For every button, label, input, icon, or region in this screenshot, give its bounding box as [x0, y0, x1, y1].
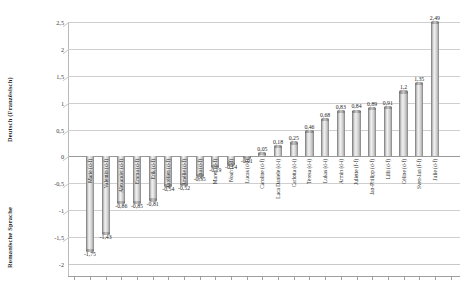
bar-slot[interactable]: 2,49Julie (d-f) [431, 22, 439, 264]
bar[interactable] [290, 143, 298, 156]
bar-category-label: Lukas (d-i) [322, 159, 328, 183]
floor-front-edge [68, 276, 460, 277]
floor-back-edge [68, 264, 460, 265]
bar[interactable] [258, 154, 266, 157]
bar-slot[interactable]: 0,91Lilli (d-f) [384, 22, 392, 264]
bar-slot[interactable]: -1,75Marie (d-f) [86, 22, 94, 264]
x-axis-tick [90, 276, 91, 280]
bar-slot[interactable]: 0,68Lukas (d-i) [321, 22, 329, 264]
y-tick-label: 0,5 [38, 126, 64, 133]
y-tick-label: 0 [38, 153, 64, 160]
bar[interactable] [337, 112, 345, 157]
y-tick-label: 2 [38, 45, 64, 52]
bar-category-label: Luca Daniele (d-i) [275, 159, 281, 199]
bar-slot[interactable]: 0,84Juliette (f-f) [352, 22, 360, 264]
bar-value-label: 2,49 [430, 15, 440, 21]
bar-category-label: Noah (d-f) [228, 159, 234, 182]
bar-category-label: Sina (d-f) [197, 159, 203, 180]
x-axis-tick [325, 276, 326, 280]
bar-slot[interactable]: 0,89Jan-Philipp (d-f) [368, 22, 376, 264]
bar-category-label: Juliette (f-f) [353, 159, 359, 185]
x-axis-tick [262, 276, 263, 280]
x-axis-tick [168, 276, 169, 280]
bar[interactable] [368, 109, 376, 157]
bar-slot[interactable]: -0,52Amélie (d-f) [180, 22, 188, 264]
bar[interactable] [384, 108, 392, 157]
y-tick-label: -1 [38, 207, 64, 214]
bar-cap [399, 90, 407, 93]
bar-slot[interactable]: -0,14Noah (d-f) [227, 22, 235, 264]
bar-category-label: Emma (d-f) [134, 159, 140, 184]
y-tick-label: 1,5 [38, 72, 64, 79]
bar-value-label: -0,81 [147, 201, 159, 207]
x-axis-tick [278, 276, 279, 280]
bar[interactable] [321, 120, 329, 157]
x-axis-floor [68, 264, 460, 282]
bar-slot[interactable]: -0,85Emma (d-f) [133, 22, 141, 264]
y-tick-label: -0,5 [38, 180, 64, 187]
x-axis-tick [309, 276, 310, 280]
bar-slot[interactable]: 0,46Teresa (d-i) [305, 22, 313, 264]
bar-series: -1,75Marie (d-f)-1,43Valentin (d-f)-0,86… [68, 22, 460, 264]
x-axis-tick [357, 276, 358, 280]
bar-category-label: Lilli (d-f) [385, 159, 391, 180]
x-axis-tick [106, 276, 107, 280]
bar[interactable] [415, 84, 423, 157]
bar-slot[interactable]: -0,54Aurélien (d-f) [164, 22, 172, 264]
bar-slot[interactable]: 0,05Caroline (d-f) [258, 22, 266, 264]
bar-slot[interactable]: -0,81Erik (d-f) [149, 22, 157, 264]
bar-chart: Deutsch (Französisch) Romanische Sprache… [0, 0, 467, 296]
bar[interactable] [352, 111, 360, 156]
plot-area: -1,75Marie (d-f)-1,43Valentin (d-f)-0,86… [68, 22, 460, 264]
bar-category-label: Erik (d-f) [150, 159, 156, 180]
x-axis-tick [74, 276, 75, 280]
y-tick-label: 2,5 [38, 19, 64, 26]
bar-value-label: 0,46 [304, 124, 314, 130]
bar-value-label: -1,75 [84, 251, 96, 257]
bar-slot[interactable]: 1,35Sven-Jan (f-f) [415, 22, 423, 264]
bar-category-label: Armin (d-i) [338, 159, 344, 184]
bar-value-label: -1,43 [100, 234, 112, 240]
y-tick-label: -1,5 [38, 234, 64, 241]
bar-category-label: Teresa (d-i) [306, 159, 312, 184]
bar-category-label: Caroline (d-f) [259, 159, 265, 189]
x-axis-tick [294, 276, 295, 280]
bar-slot[interactable]: -1,43Valentin (d-f) [102, 22, 110, 264]
x-axis-tick [451, 276, 452, 280]
bar-slot[interactable]: -0,35Sina (d-f) [196, 22, 204, 264]
x-axis-tick [372, 276, 373, 280]
bar-value-label: 1,35 [414, 76, 424, 82]
x-axis-tick [184, 276, 185, 280]
bar-value-label: -0,86 [115, 203, 127, 209]
bar-slot[interactable]: 0,83Armin (d-i) [337, 22, 345, 264]
bar-category-label: Alexander (d-f) [118, 159, 124, 193]
bar-slot[interactable]: -0,19Maren (d-f) [211, 22, 219, 264]
bar-value-label: 0,84 [351, 103, 361, 109]
bar[interactable] [431, 23, 439, 157]
bar-slot[interactable]: -0,01Lucas (d-f) [243, 22, 251, 264]
bar[interactable] [274, 147, 282, 157]
bar-slot[interactable]: 0,18Luca Daniele (d-i) [274, 22, 282, 264]
bar-value-label: 0,05 [257, 146, 267, 152]
floor-left-edge [68, 264, 69, 276]
bar-cap [384, 106, 392, 109]
bar-slot[interactable]: 0,25Carlotta (d-i) [290, 22, 298, 264]
bar-cap [337, 110, 345, 113]
bar[interactable] [305, 132, 313, 157]
bar-cap [305, 130, 313, 133]
bar-category-label: Julie (d-f) [432, 159, 438, 180]
x-axis-tick [215, 276, 216, 280]
bar-cap [274, 145, 282, 148]
bar-value-label: 0,91 [383, 100, 393, 106]
bar-cap [258, 152, 266, 155]
bar-category-label: Maren (d-f) [212, 159, 218, 184]
y-axis-ticks: 2,521,510,50-0,5-1-1,5-2 [34, 22, 64, 264]
y-tick-label: -2 [38, 261, 64, 268]
bar-slot[interactable]: 1,2Céline (d-f) [399, 22, 407, 264]
x-axis-tick [247, 276, 248, 280]
x-axis-tick [388, 276, 389, 280]
bar-slot[interactable]: -0,86Alexander (d-f) [117, 22, 125, 264]
bar[interactable] [399, 92, 407, 157]
bar-cap [352, 110, 360, 113]
bar-category-label: Marie (d-f) [87, 159, 93, 183]
